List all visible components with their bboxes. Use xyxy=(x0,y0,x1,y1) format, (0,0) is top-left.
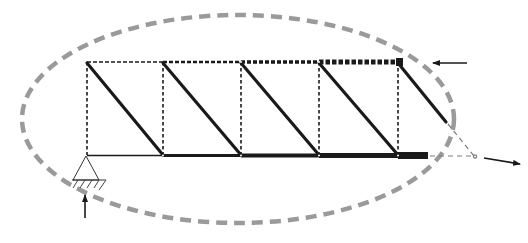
bottom-load-arrow xyxy=(484,158,520,164)
truss-diagram xyxy=(0,0,528,243)
vertical-members xyxy=(87,62,398,155)
pin-support-icon xyxy=(72,156,106,190)
top-chord xyxy=(87,58,403,66)
bottom-chord xyxy=(87,152,428,159)
diagonal-members xyxy=(87,63,446,155)
